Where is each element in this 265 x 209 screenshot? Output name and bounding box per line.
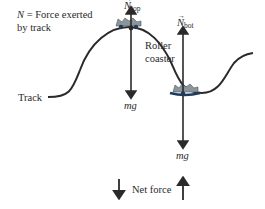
n-bot-label: Nbot: [177, 17, 194, 32]
legend-line-2: by track: [17, 22, 51, 34]
legend-line-1: N = Force exerted: [17, 9, 93, 21]
roller-coaster-label-1: Roller: [145, 40, 171, 52]
mg-bot-label: mg: [176, 150, 189, 162]
n-top-label: Ntop: [124, 0, 141, 15]
legend-symbol: N: [17, 9, 24, 20]
net-force-label: Net force: [132, 184, 171, 196]
roller-coaster-label-2: coaster: [145, 53, 175, 65]
track-label: Track: [18, 92, 42, 104]
legend-text-1: = Force exerted: [27, 9, 93, 20]
mg-top-label: mg: [124, 100, 137, 112]
